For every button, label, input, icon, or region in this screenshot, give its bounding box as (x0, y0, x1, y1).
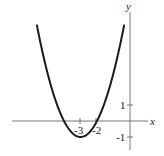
y-axis-label: y (125, 0, 131, 12)
x-tick-label--2: -2 (92, 124, 101, 136)
x-axis-label: x (149, 115, 155, 127)
y-tick-label--1: -1 (116, 131, 125, 143)
parabola-curve (37, 25, 124, 137)
y-tick-label-1: 1 (120, 99, 126, 111)
parabola-chart: x y -3 -2 1 -1 (0, 0, 164, 156)
x-tick-label--3: -3 (74, 124, 84, 136)
